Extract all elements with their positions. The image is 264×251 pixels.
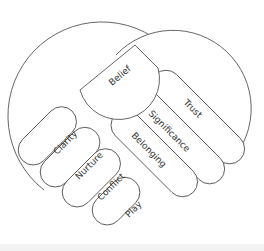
bottom-bar — [0, 244, 264, 251]
diagram-canvas: Belief Trust Significance Belonging Clar… — [0, 0, 264, 251]
